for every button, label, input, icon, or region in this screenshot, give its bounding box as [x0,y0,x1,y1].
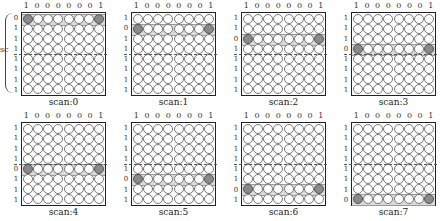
column-bit: 0 [404,1,415,11]
led-icon [353,184,363,194]
led-icon [273,54,283,64]
led-icon [94,54,104,64]
led-icon [373,74,383,84]
led-icon [53,14,63,24]
led-icon [153,174,163,184]
scan-label: scan:2 [241,97,326,107]
led-icon [74,174,84,184]
led-icon [243,44,253,54]
led-icon [204,124,214,134]
led-icon [43,74,53,84]
led-icon [174,14,184,24]
led-icon [53,34,63,44]
column-bits: 10000001 [21,111,106,121]
led-icon [294,24,304,34]
led-icon [424,54,434,64]
column-bits: 10000001 [241,1,326,11]
led-icon [294,174,304,184]
led-icon [33,64,43,74]
column-bit: 0 [372,111,383,121]
led-icon [414,134,424,144]
led-icon [424,154,434,164]
scan-label: scan:5 [131,207,216,217]
led-icon [163,84,173,94]
scan-panel-7: 1000000111111110scan:7 [330,110,440,220]
led-icon [414,14,424,24]
led-icon [414,164,424,174]
led-icon [363,64,373,74]
led-icon [74,74,84,84]
led-icon [64,44,74,54]
led-icon [133,184,143,194]
led-icon [153,54,163,64]
led-icon [273,44,283,54]
led-icon [243,194,253,204]
led-icon [153,164,163,174]
column-bit: 0 [74,111,85,121]
led-icon [53,44,63,54]
led-icon [404,34,414,44]
led-icon [23,154,33,164]
led-icon [243,154,253,164]
led-icon [404,54,414,64]
led-icon [273,64,283,74]
led-icon [414,64,424,74]
led-icon [263,184,273,194]
column-bit: 0 [383,1,394,11]
led-icon [204,154,214,164]
led-icon [314,14,324,24]
led-icon [163,144,173,154]
row-bit: 1 [232,13,240,23]
row-bit: 1 [342,174,350,184]
led-icon [33,34,43,44]
led-icon [363,14,373,24]
led-icon [64,194,74,204]
column-bits: 10000001 [241,111,326,121]
led-icon [33,164,43,174]
column-bits: 10000001 [21,1,106,11]
row-bit: 1 [342,85,350,95]
led-icon [43,34,53,44]
led-icon [284,34,294,44]
led-icon [304,34,314,44]
row-bit: 1 [122,85,130,95]
led-icon [33,134,43,144]
column-bit: 0 [273,111,284,121]
led-icon [74,64,84,74]
scan-label: scan:6 [241,207,326,217]
led-icon [84,124,94,134]
led-icon [174,164,184,174]
row-bit: 1 [122,144,130,154]
led-icon [133,194,143,204]
led-icon [243,64,253,74]
led-icon [74,14,84,24]
column-bit: 0 [415,1,426,11]
led-icon [53,164,63,174]
led-icon [133,84,143,94]
row-bit: 1 [122,195,130,205]
led-icon [273,14,283,24]
led-icon [53,184,63,194]
row-bit: 1 [342,185,350,195]
column-bit: 1 [95,111,106,121]
scan-panel-1: 1000000110111111scan:1 [110,0,220,110]
led-icon [383,54,393,64]
row-bit: 1 [232,85,240,95]
led-icon [414,144,424,154]
led-icon [43,44,53,54]
row-bit: 0 [122,23,130,33]
led-icon [94,184,104,194]
led-icon [353,34,363,44]
led-icon [424,14,434,24]
led-icon [304,144,314,154]
row-bit: 1 [12,174,20,184]
led-icon [424,134,434,144]
led-icon [184,34,194,44]
led-icon [253,154,263,164]
scan-panel-4: 1000000111110111scan:4 [0,110,110,220]
led-icon [174,154,184,164]
led-icon [294,74,304,84]
row-bit: 1 [232,133,240,143]
led-icon [414,174,424,184]
led-icon [404,44,414,54]
